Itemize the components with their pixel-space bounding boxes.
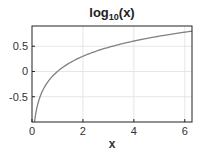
y-tick-label: -0.5 bbox=[9, 91, 28, 103]
data-line bbox=[35, 31, 192, 122]
x-axis-label: x bbox=[109, 137, 116, 151]
chart-figure: log10(x) 0246 -0.500.5 x bbox=[0, 0, 206, 166]
x-tick-label: 6 bbox=[182, 125, 188, 137]
x-tick-label: 0 bbox=[29, 125, 35, 137]
y-tick-label: 0 bbox=[22, 65, 28, 77]
grid-lines bbox=[32, 26, 192, 122]
y-tick-label: 0.5 bbox=[13, 40, 28, 52]
chart-title: log10(x) bbox=[89, 5, 134, 22]
y-axis-ticks: -0.500.5 bbox=[9, 40, 35, 103]
axes-box bbox=[32, 26, 192, 122]
x-tick-label: 4 bbox=[131, 125, 137, 137]
x-tick-label: 2 bbox=[80, 125, 86, 137]
